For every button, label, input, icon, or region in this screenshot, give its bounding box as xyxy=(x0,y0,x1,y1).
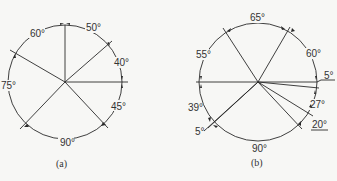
angle-label: 90° xyxy=(60,137,75,148)
radial-line-neg5 xyxy=(258,82,319,88)
angle-label: 55° xyxy=(196,49,211,60)
radial-line-neg45 xyxy=(65,82,108,128)
radial-line-120 xyxy=(223,28,258,82)
angle-diagrams: 60° 50° 40° 45° 90° 75° (a) xyxy=(0,0,337,181)
figure-a: 60° 50° 40° 45° 90° 75° (a) xyxy=(1,22,129,170)
radial-line-neg140 xyxy=(204,82,258,131)
angle-label: 50° xyxy=(86,22,101,33)
angle-label: 90° xyxy=(252,143,267,154)
radial-line-neg135 xyxy=(20,82,65,129)
angle-label: 60° xyxy=(306,48,321,59)
arrowhead-icon xyxy=(200,76,202,80)
angle-label: 39° xyxy=(188,102,203,113)
radial-line-40 xyxy=(65,41,112,82)
angle-label: 45° xyxy=(111,101,126,112)
angle-label: 27° xyxy=(310,99,325,110)
arrowhead-icon xyxy=(213,125,218,128)
angle-label: 60° xyxy=(30,28,45,39)
arrowhead-icon xyxy=(200,84,202,88)
angle-label: 5° xyxy=(195,126,205,137)
angle-label: 5° xyxy=(324,70,334,81)
arrowhead-icon xyxy=(291,28,295,32)
figure-b: 65° 55° 60° 5° 27° 20° 39° 5° 90° (b) xyxy=(187,12,335,169)
angle-label: 65° xyxy=(250,12,265,23)
radial-line-55 xyxy=(258,27,290,82)
arrowhead-icon xyxy=(121,76,123,80)
angle-label: 40° xyxy=(114,57,129,68)
angle-label: 20° xyxy=(312,119,327,130)
arrowhead-icon xyxy=(13,54,16,58)
leader-line-5 xyxy=(317,80,321,82)
figure-caption-b: (b) xyxy=(251,157,263,169)
figure-caption-a: (a) xyxy=(56,158,67,170)
angle-label: 75° xyxy=(1,80,16,91)
arrowhead-icon xyxy=(208,117,211,122)
arrowhead-icon xyxy=(121,84,123,88)
radial-line-150 xyxy=(10,50,65,82)
